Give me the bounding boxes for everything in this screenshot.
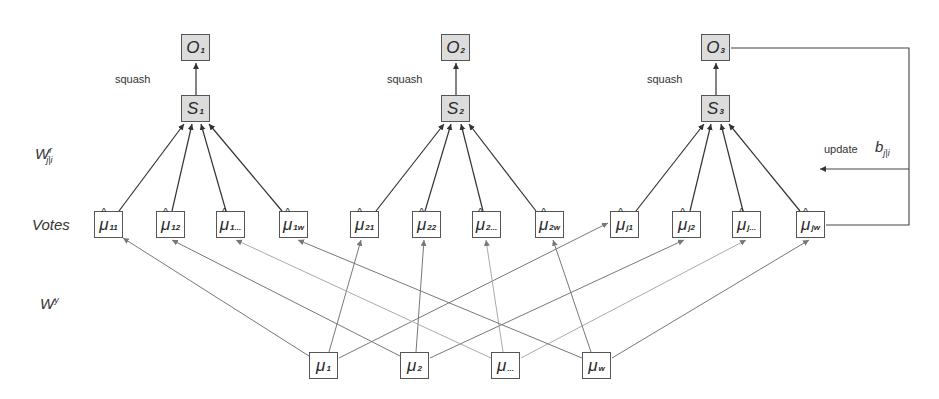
vote-node-22: μ22	[412, 211, 441, 238]
sum-node-1: S1	[181, 95, 210, 122]
output-symbol: O	[706, 38, 719, 58]
squash-label-1: squash	[115, 73, 150, 85]
input-node-w: μw	[582, 352, 611, 379]
input-symbol: μ	[407, 356, 416, 376]
vote-symbol: μ	[417, 215, 426, 235]
vote-node-12: μ12	[156, 211, 185, 238]
vote-symbol: μ	[283, 215, 292, 235]
sum-index: 1	[199, 107, 203, 116]
output-symbol: O	[186, 38, 199, 58]
vote-symbol: μ	[476, 215, 485, 235]
squash-label-2: squash	[387, 73, 422, 85]
vote-symbol: μ	[616, 215, 625, 235]
sum-index: 3	[719, 107, 723, 116]
transform-weights-symbol: W	[40, 295, 54, 312]
vote-node-2w: μ2w	[535, 211, 564, 238]
input-symbol: μ	[588, 356, 597, 376]
coupling-logit-label: bj|i	[875, 138, 890, 158]
vote-index: 12	[171, 223, 180, 232]
vote-node-11: μ11	[94, 211, 123, 238]
vote-index: j1	[626, 223, 633, 232]
input-node-ellipsis: μ...	[491, 352, 520, 379]
input-index: 2	[417, 364, 421, 373]
sum-index: 2	[459, 107, 463, 116]
vote-symbol: μ	[801, 215, 810, 235]
vote-node-jw: μjw	[796, 211, 825, 238]
input-node-1: μ1	[309, 352, 338, 379]
vote-symbol: μ	[99, 215, 108, 235]
vote-symbol: μ	[539, 215, 548, 235]
vote-index: j...	[747, 223, 756, 232]
vote-node-j1: μj1	[610, 211, 639, 238]
sum-symbol: S	[187, 99, 198, 119]
vote-symbol: μ	[678, 215, 687, 235]
input-index: w	[599, 364, 605, 373]
output-index: 2	[460, 46, 464, 55]
vote-index: 1...	[230, 223, 241, 232]
transform-weights-label: Wy	[40, 295, 59, 312]
output-node-3: O3	[701, 34, 730, 61]
vote-node-j-ellipsis: μj...	[732, 211, 761, 238]
input-index: ...	[507, 364, 514, 373]
routing-weights-sub: j|i	[46, 155, 52, 165]
squash-label-3: squash	[647, 73, 682, 85]
update-label: update	[824, 143, 858, 155]
routing-weights-sup: r	[49, 145, 52, 155]
vote-symbol: μ	[220, 215, 229, 235]
vote-index: 11	[110, 223, 118, 232]
vote-node-2-ellipsis: μ2...	[472, 211, 501, 238]
sum-symbol: S	[447, 99, 458, 119]
sum-symbol: S	[707, 99, 718, 119]
routing-weights-label: Wrj|i	[35, 145, 53, 165]
vote-node-1w: μ1w	[279, 211, 308, 238]
vote-index: 2...	[486, 223, 497, 232]
vote-index: 1w	[293, 223, 304, 232]
vote-node-21: μ21	[350, 211, 379, 238]
sum-node-3: S3	[701, 95, 730, 122]
transform-weights-sup: y	[54, 295, 59, 305]
vote-symbol: μ	[355, 215, 364, 235]
input-symbol: μ	[497, 356, 506, 376]
vote-index: 21	[365, 223, 374, 232]
output-index: 3	[720, 46, 724, 55]
input-index: 1	[326, 364, 330, 373]
vote-node-1-ellipsis: μ1...	[216, 211, 245, 238]
input-node-2: μ2	[400, 352, 429, 379]
output-node-2: O2	[441, 34, 470, 61]
output-index: 1	[200, 46, 204, 55]
vote-node-j2: μj2	[672, 211, 701, 238]
output-node-1: O1	[181, 34, 210, 61]
vote-symbol: μ	[161, 215, 170, 235]
output-symbol: O	[446, 38, 459, 58]
vote-index: j2	[688, 223, 695, 232]
sum-node-2: S2	[441, 95, 470, 122]
vote-index: 2w	[549, 223, 560, 232]
vote-index: 22	[427, 223, 436, 232]
votes-label: Votes	[32, 216, 70, 233]
coupling-logit-sub: j|i	[883, 148, 889, 158]
vote-symbol: μ	[737, 215, 746, 235]
input-symbol: μ	[316, 356, 325, 376]
vote-index: jw	[811, 223, 819, 232]
